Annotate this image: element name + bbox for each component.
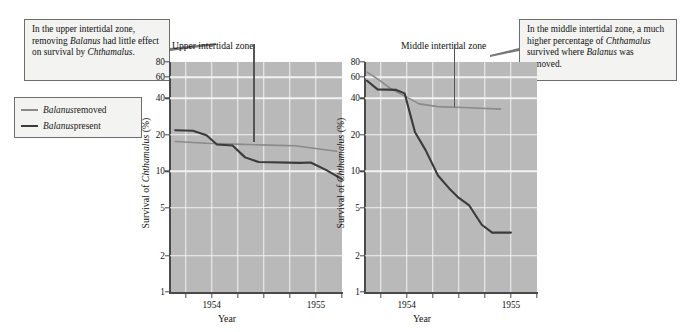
y-tick-label: 5 xyxy=(160,203,165,213)
x-tick-mark xyxy=(211,292,212,298)
y-tick-label: 2 xyxy=(355,251,360,261)
y-tick-label: 20 xyxy=(156,130,165,140)
x-tick-mark xyxy=(263,292,264,298)
legend-label-italic: Balanus xyxy=(43,121,74,131)
chart-legend: Balanus removed Balanus present xyxy=(14,97,142,138)
legend-item-balanus-present: Balanus present xyxy=(21,118,135,134)
y-tick-label: 60 xyxy=(156,72,165,82)
chart-panel-middle-intertidal: Middle intertidal zone Survival of Chtha… xyxy=(329,0,544,332)
series-line-balanus-removed xyxy=(175,141,337,151)
y-tick-label: 5 xyxy=(355,203,360,213)
x-tick-label: 1954 xyxy=(397,300,416,310)
x-tick-mark xyxy=(458,292,459,298)
x-tick-mark xyxy=(185,292,186,298)
y-tick-label: 40 xyxy=(351,93,360,103)
annotation-italic-chthamalus: Chthamalus xyxy=(88,47,133,57)
x-tick-mark xyxy=(432,292,433,298)
series-lines-upper xyxy=(170,62,342,292)
legend-label-rest: present xyxy=(74,121,101,131)
x-tick-mark xyxy=(380,292,381,298)
y-tick-label: 10 xyxy=(156,166,165,176)
series-lines-middle xyxy=(365,62,537,292)
y-tick-label: 80 xyxy=(156,57,165,67)
y-tick-label: 1 xyxy=(355,287,360,297)
annotation-text-line4: survival by xyxy=(44,47,88,57)
y-axis-label: Survival of Chthamalus (%) xyxy=(335,98,346,248)
x-tick-label: 1955 xyxy=(307,300,326,310)
x-tick-label: 1955 xyxy=(502,300,521,310)
legend-swatch-balanus-present xyxy=(21,125,38,127)
y-tick-label: 1 xyxy=(160,287,165,297)
x-tick-mark xyxy=(536,292,537,298)
series-line-balanus-present xyxy=(367,81,511,233)
legend-swatch-balanus-removed xyxy=(21,109,38,111)
y-tick-label: 40 xyxy=(156,93,165,103)
plot-area-middle: 125102040608019541955 xyxy=(365,62,537,292)
x-axis-line xyxy=(169,292,343,294)
figure-root: In the upper intertidal zone, removing B… xyxy=(0,0,684,332)
chart-title-upper: Upper intertidal zone xyxy=(172,40,254,51)
legend-label-italic: Balanus xyxy=(43,105,74,115)
chart-panel-upper-intertidal: Upper intertidal zone Survival of Chtham… xyxy=(134,0,349,332)
x-tick-mark xyxy=(510,292,511,298)
annotation-italic-balanus: Balanus xyxy=(70,36,100,46)
annotation-text-line1: In the upper intertidal xyxy=(32,24,113,34)
annotation-italic-balanus: Balanus xyxy=(586,47,616,57)
series-line-balanus-present xyxy=(175,130,342,179)
legend-label-rest: removed xyxy=(74,105,107,115)
x-axis-label: Year xyxy=(218,313,236,324)
title-pointer-line xyxy=(253,44,254,142)
x-tick-mark xyxy=(315,292,316,298)
x-tick-label: 1954 xyxy=(202,300,221,310)
annotation-italic-chthamalus: Chthamalus xyxy=(606,36,651,46)
y-tick-label: 10 xyxy=(351,166,360,176)
x-axis-label: Year xyxy=(413,313,431,324)
y-tick-label: 20 xyxy=(351,130,360,140)
y-tick-label: 2 xyxy=(160,251,165,261)
x-tick-mark xyxy=(484,292,485,298)
title-pointer-line xyxy=(454,44,455,107)
chart-title-middle: Middle intertidal zone xyxy=(401,40,486,51)
y-axis-label: Survival of Chthamalus (%) xyxy=(140,98,151,248)
y-tick-label: 80 xyxy=(351,57,360,67)
x-tick-mark xyxy=(289,292,290,298)
x-tick-mark xyxy=(237,292,238,298)
y-tick-label: 60 xyxy=(351,72,360,82)
x-axis-line xyxy=(364,292,538,294)
x-tick-mark xyxy=(406,292,407,298)
legend-item-balanus-removed: Balanus removed xyxy=(21,102,135,118)
plot-area-upper: 125102040608019541955 xyxy=(170,62,342,292)
